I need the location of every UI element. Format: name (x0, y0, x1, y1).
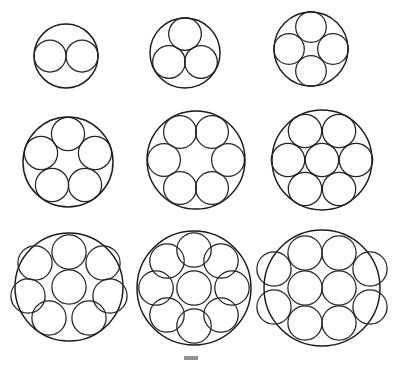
packing-group-n9: n = 9 — eight circle ring around one cen… (137, 231, 251, 345)
packed-circle (305, 143, 338, 176)
packed-circle (288, 114, 321, 147)
packed-circle (72, 301, 106, 335)
packing-group-n7: n = 7 — hexagonal packing, six around on… (271, 110, 372, 210)
packed-circle (139, 271, 173, 305)
packed-circle (52, 235, 86, 269)
packing-diagram-canvas: n = 2 — two circles side by side on a di… (0, 0, 397, 365)
packing-group-n5: n = 5 — regular pentagon ring, one circl… (23, 117, 113, 207)
packed-circle (288, 236, 322, 270)
packed-circle (177, 233, 211, 267)
packed-circle (339, 143, 372, 176)
enclosing-circle-n3 (150, 18, 220, 88)
packed-circle (78, 136, 111, 169)
cropped-caption-artifact (184, 356, 198, 360)
packed-circle (204, 298, 238, 332)
packed-circle (150, 298, 184, 332)
packing-group-n3: n = 3 — equilateral triangle, one circle… (150, 18, 220, 88)
packed-circle (257, 290, 291, 324)
packed-circle (169, 18, 202, 51)
packing-group-n6: n = 6 — regular hexagon ring, hollow cen… (147, 111, 245, 209)
packed-circle (274, 34, 305, 65)
packed-circle (296, 56, 327, 87)
packing-group-n8: n = 8 — seven circle ring around one cen… (11, 233, 127, 341)
packing-group-n2: n = 2 — two circles side by side on a di… (34, 24, 98, 88)
packed-circle (18, 246, 52, 280)
packed-circle (150, 244, 184, 278)
enclosing-circle-n7 (272, 110, 372, 210)
packed-circle (204, 244, 238, 278)
packed-circle (288, 172, 321, 205)
packed-circle (318, 34, 349, 65)
packed-circle (353, 252, 387, 286)
packed-circle (196, 172, 229, 205)
circle-packing-figure: n = 2 — two circles side by side on a di… (0, 0, 397, 365)
packed-circle (185, 46, 218, 79)
packed-circle (322, 236, 356, 270)
packed-circle (164, 172, 197, 205)
enclosing-circle-n8 (15, 233, 123, 341)
packed-circle (288, 271, 322, 305)
packed-circle (215, 271, 249, 305)
enclosing-circle-n4 (274, 12, 348, 86)
packed-circle (86, 246, 120, 280)
packed-circle (148, 144, 181, 177)
enclosing-circle-n6 (147, 111, 245, 209)
packed-circle (288, 306, 322, 340)
packed-circle (212, 144, 245, 177)
packed-circle (32, 301, 66, 335)
packed-circle (322, 306, 356, 340)
packed-circle (35, 168, 68, 201)
packed-circle (322, 172, 355, 205)
packed-circle (353, 290, 387, 324)
packed-circle (177, 309, 211, 343)
packed-circle (52, 270, 86, 304)
packed-circle (34, 40, 66, 72)
packing-group-n10: n = 10 — eight circle outer ring with tw… (257, 230, 387, 346)
packed-circle (153, 46, 186, 79)
packed-circle (68, 168, 101, 201)
packing-group-n4: n = 4 — square / diamond of four circles (274, 12, 349, 87)
packed-circle (322, 271, 356, 305)
packed-circle (24, 136, 57, 169)
enclosing-circle-n9 (137, 231, 251, 345)
packed-circle (296, 12, 327, 43)
packed-circle (271, 143, 304, 176)
packed-circle (257, 252, 291, 286)
packed-circle (164, 116, 197, 149)
packed-circle (66, 40, 98, 72)
packed-circle (177, 271, 211, 305)
packed-circle (322, 114, 355, 147)
packed-circle (196, 116, 229, 149)
